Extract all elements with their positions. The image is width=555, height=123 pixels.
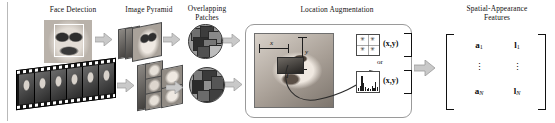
gabor-filter-box: ✳ ✳ ✳ ✳ (356, 34, 380, 56)
overlapping-patches-bottom (189, 67, 225, 103)
label-spatial-appearance-features: Spatial-Appearance Features (441, 5, 553, 22)
matrix-cell-a-dots: ⋮ (462, 62, 496, 72)
feature-matrix: a1 l1 ⋮ ⋮ aN lN (444, 32, 548, 114)
arrow-pyramid-to-patches-bottom (166, 81, 183, 94)
overlapping-patches-top (188, 24, 223, 59)
gabor-bracket (404, 33, 412, 57)
histogram-box (356, 71, 380, 93)
matrix-a-sub-2: N (479, 89, 483, 96)
y-axis-label: y (305, 48, 308, 56)
matrix-bracket-right (538, 34, 546, 110)
matrix-a-sub-0: 1 (480, 43, 483, 50)
arrow-patches-to-panel-bottom (225, 78, 242, 91)
face-detection-box (54, 24, 84, 57)
label-location-augmentation: Location Augmentation (275, 6, 399, 15)
matrix-cell-a1: a1 (462, 40, 496, 50)
gabor-cell-2: ✳ (358, 45, 367, 52)
gabor-cell-0: ✳ (358, 35, 367, 42)
histogram-bracket (404, 70, 412, 94)
arrow-film-to-pyramid (117, 79, 134, 92)
matrix-bracket-left (446, 34, 454, 110)
matrix-l-sub-0: 1 (517, 43, 520, 50)
gabor-xy-label: (x,y) (383, 39, 398, 48)
matrix-cell-lN: lN (500, 86, 534, 96)
matrix-cell-aN: aN (462, 86, 496, 96)
pipeline-figure: Face Detection Image Pyramid Overlapping… (0, 0, 555, 123)
face-detection-image (44, 20, 92, 63)
arrow-detection-to-pyramid (95, 33, 112, 46)
label-face-detection: Face Detection (32, 6, 114, 15)
histogram-xy-label: (x,y) (383, 76, 398, 85)
label-overlapping-patches: Overlapping Patches (176, 5, 238, 22)
location-augmentation-panel: x y I ✳ ✳ ✳ ✳ (x,y) or (245, 24, 412, 118)
left-rule (7, 2, 8, 121)
arrow-patches-to-panel-top (223, 34, 240, 47)
x-measure-line (259, 48, 289, 49)
arrow-pyramid-to-patches-top (163, 33, 180, 46)
matrix-cell-l1: l1 (500, 40, 534, 50)
label-image-pyramid: Image Pyramid (115, 6, 183, 15)
gabor-cell-1: ✳ (368, 35, 377, 42)
descriptor-or-label: or (377, 58, 383, 66)
video-film-strip (16, 58, 116, 110)
image-pyramid-top (118, 20, 162, 62)
x-axis-label: x (270, 39, 273, 47)
histogram-bars (358, 75, 378, 91)
matrix-l-sub-2: N (516, 89, 520, 96)
gabor-cell-3: ✳ (368, 45, 377, 52)
arrow-panel-to-matrix (414, 60, 435, 76)
matrix-cell-l-dots: ⋮ (500, 62, 534, 72)
